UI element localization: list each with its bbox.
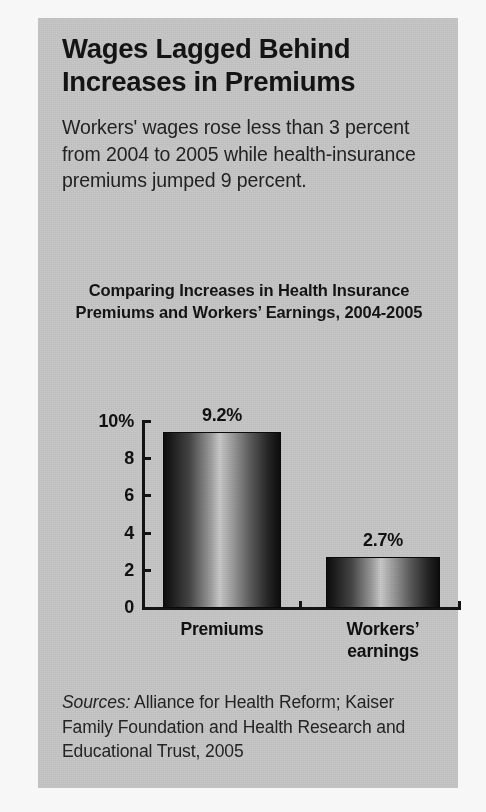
- category-label-workers-earnings: Workers’ earnings: [318, 618, 448, 663]
- y-tick-4: [142, 532, 151, 535]
- bar-value-workers-earnings: 2.7%: [326, 530, 440, 551]
- y-tick-6: [142, 494, 151, 497]
- y-tick-2: [142, 569, 151, 572]
- y-tick-10: [142, 420, 151, 423]
- category-label-premiums: Premiums: [154, 618, 290, 640]
- y-tick-label-8: 8: [62, 448, 134, 469]
- y-axis-line: [142, 420, 145, 610]
- bar-chart: 10% 8 6 4 2 0 9.2% Premiums 2.7% Workers…: [38, 348, 458, 648]
- y-tick-label-10: 10%: [62, 411, 134, 432]
- page-title: Wages Lagged Behind Increases in Premium…: [62, 32, 434, 98]
- bar-workers-earnings: [326, 557, 440, 608]
- sources-note: Sources: Alliance for Health Reform; Kai…: [62, 690, 444, 764]
- category-label-line-2: earnings: [318, 640, 448, 662]
- x-tick-category-divider: [299, 601, 302, 608]
- bar-value-premiums: 9.2%: [163, 405, 281, 426]
- y-axis-labels: 10% 8 6 4 2 0: [38, 348, 134, 648]
- category-label-line-1: Workers’: [318, 618, 448, 640]
- infographic-panel: Wages Lagged Behind Increases in Premium…: [38, 18, 458, 788]
- x-tick-axis-end: [458, 601, 461, 610]
- y-tick-label-0: 0: [62, 597, 134, 618]
- y-tick-label-2: 2: [62, 560, 134, 581]
- sources-label: Sources:: [62, 692, 130, 712]
- y-tick-8: [142, 457, 151, 460]
- chart-title: Comparing Increases in Health Insurance …: [68, 280, 430, 324]
- bar-premiums: [163, 432, 281, 608]
- y-tick-label-4: 4: [62, 523, 134, 544]
- deck-paragraph: Workers' wages rose less than 3 percent …: [62, 114, 440, 194]
- y-tick-label-6: 6: [62, 485, 134, 506]
